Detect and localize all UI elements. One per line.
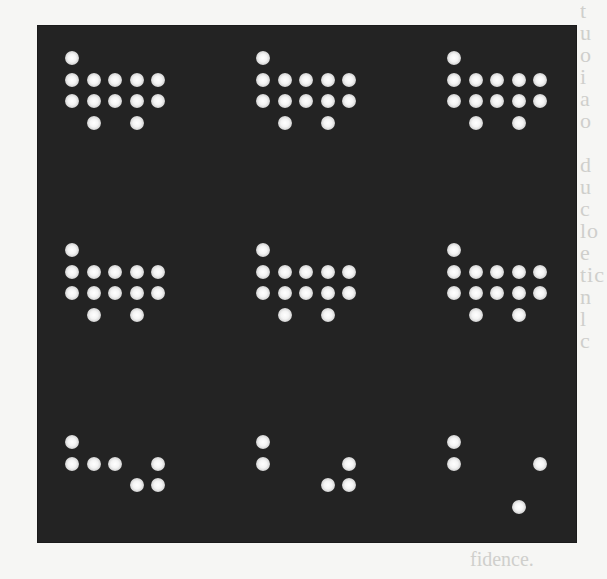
- dot: [65, 457, 79, 471]
- dot: [533, 73, 547, 87]
- dot-pattern-r3c2: [263, 442, 373, 532]
- dot: [65, 286, 79, 300]
- dot: [321, 478, 335, 492]
- dot: [299, 265, 313, 279]
- dot-pattern-r1c2: [263, 58, 373, 148]
- page-bleed-right-margin-text: t u o i a o d u c lo e tic n l c: [580, 0, 607, 579]
- dot: [342, 478, 356, 492]
- dot: [321, 73, 335, 87]
- dot: [130, 116, 144, 130]
- dot: [512, 500, 526, 514]
- dot: [321, 286, 335, 300]
- dot: [447, 73, 461, 87]
- dot-pattern-r2c1: [72, 250, 182, 340]
- dot: [256, 435, 270, 449]
- dot: [490, 286, 504, 300]
- dot: [278, 286, 292, 300]
- dot: [130, 265, 144, 279]
- dot: [151, 286, 165, 300]
- dot: [533, 94, 547, 108]
- dot: [512, 286, 526, 300]
- dot: [512, 73, 526, 87]
- dot: [278, 73, 292, 87]
- dot: [87, 286, 101, 300]
- dot: [447, 435, 461, 449]
- dot: [512, 265, 526, 279]
- dot: [533, 286, 547, 300]
- dot: [533, 265, 547, 279]
- dot: [256, 94, 270, 108]
- dot: [278, 265, 292, 279]
- dot: [130, 308, 144, 322]
- dot: [469, 94, 483, 108]
- dot-pattern-r3c3: [454, 442, 564, 532]
- dot: [108, 457, 122, 471]
- dot: [469, 286, 483, 300]
- dot: [342, 73, 356, 87]
- dot: [469, 116, 483, 130]
- dot-pattern-r2c3: [454, 250, 564, 340]
- dot-matrix-figure-panel: [37, 25, 577, 543]
- dot: [469, 308, 483, 322]
- dot: [321, 265, 335, 279]
- dot: [490, 73, 504, 87]
- dot: [256, 265, 270, 279]
- dot: [65, 73, 79, 87]
- dot: [321, 116, 335, 130]
- dot: [533, 457, 547, 471]
- dot: [130, 94, 144, 108]
- dot: [278, 94, 292, 108]
- dot: [130, 286, 144, 300]
- dot: [65, 435, 79, 449]
- dot: [256, 457, 270, 471]
- dot: [108, 286, 122, 300]
- dot-pattern-r3c1: [72, 442, 182, 532]
- dot: [299, 94, 313, 108]
- dot: [447, 286, 461, 300]
- dot: [65, 51, 79, 65]
- dot: [490, 265, 504, 279]
- dot: [151, 457, 165, 471]
- dot: [321, 308, 335, 322]
- dot: [342, 457, 356, 471]
- dot: [447, 243, 461, 257]
- dot: [342, 286, 356, 300]
- dot: [87, 265, 101, 279]
- dot: [469, 265, 483, 279]
- dot: [447, 94, 461, 108]
- dot: [256, 286, 270, 300]
- dot: [108, 265, 122, 279]
- dot: [130, 73, 144, 87]
- dot: [321, 94, 335, 108]
- dot: [65, 94, 79, 108]
- dot: [469, 73, 483, 87]
- dot: [256, 73, 270, 87]
- dot: [130, 478, 144, 492]
- dot: [151, 73, 165, 87]
- dot: [512, 116, 526, 130]
- dot: [256, 51, 270, 65]
- dot: [87, 457, 101, 471]
- dot: [447, 457, 461, 471]
- dot: [278, 308, 292, 322]
- dot: [447, 265, 461, 279]
- dot: [65, 243, 79, 257]
- dot: [299, 73, 313, 87]
- dot: [108, 73, 122, 87]
- dot: [151, 94, 165, 108]
- dot: [512, 308, 526, 322]
- dot: [151, 265, 165, 279]
- dot: [65, 265, 79, 279]
- dot: [87, 116, 101, 130]
- dot-pattern-r1c1: [72, 58, 182, 148]
- dot: [490, 94, 504, 108]
- dot-pattern-r2c2: [263, 250, 373, 340]
- dot-pattern-r1c3: [454, 58, 564, 148]
- dot: [87, 94, 101, 108]
- dot: [299, 286, 313, 300]
- page-bleed-bottom-text: fidence.: [470, 548, 534, 571]
- dot: [512, 94, 526, 108]
- dot: [256, 243, 270, 257]
- dot: [342, 94, 356, 108]
- dot: [87, 308, 101, 322]
